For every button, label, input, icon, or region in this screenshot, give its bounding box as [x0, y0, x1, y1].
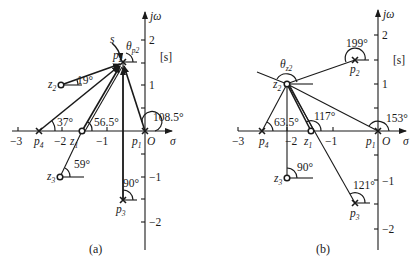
x-tick-neg3: −3 [10, 135, 22, 147]
sigma-axis-label: σ [170, 135, 177, 147]
x-tick-neg1: −1 [325, 135, 337, 147]
jw-axis-label: jω [148, 10, 161, 23]
angle-label-199: 199° [346, 37, 368, 49]
pole-label-p3: p3 [349, 207, 360, 222]
pole-label-p4: p4 [258, 135, 269, 150]
vector-p3-z2 [289, 86, 355, 203]
arrival-angle-label: θz2 [280, 58, 293, 73]
zero-label-z2: z2 [47, 78, 56, 93]
angle-label-56-5: 56.5° [94, 116, 119, 128]
y-tick-1: 1 [382, 78, 388, 90]
root-locus-figure: jω σ O [s] 2 1 −1 −2 −3 −2 −1 s [0, 0, 417, 270]
pole-label-p1: p1 [131, 135, 142, 150]
pole-label-p2: p2 [349, 63, 360, 78]
angle-label-59: 59° [74, 158, 91, 170]
vector-p2-z2 [289, 60, 355, 83]
y-tick-2: 2 [149, 34, 155, 46]
zero-z1 [79, 128, 85, 134]
x-tick-neg3: −3 [232, 135, 244, 147]
y-tick-2: 2 [382, 29, 388, 41]
test-point-s: s [110, 33, 115, 45]
zero-z3 [284, 175, 290, 181]
pole-label-p4: p4 [33, 135, 44, 150]
angle-label-90: 90° [123, 177, 140, 189]
angle-label-153: 153° [386, 112, 408, 124]
zero-label-z3: z3 [46, 170, 55, 185]
pole-label-p1: p1 [365, 135, 376, 150]
zero-label-z1: z1 [69, 135, 78, 150]
angle-arc-63-5 [267, 122, 273, 131]
angle-label-117: 117° [314, 110, 336, 122]
pole-label-p3: p3 [115, 203, 126, 218]
zero-z3 [57, 174, 63, 180]
departure-angle-label: θp2 [126, 40, 139, 55]
zero-label-z1: z1 [303, 135, 312, 150]
y-tick-neg2: −2 [382, 223, 394, 235]
angle-label-90: 90° [297, 161, 314, 173]
panel-a: jω σ O [s] 2 1 −1 −2 −3 −2 −1 s [10, 10, 184, 256]
zero-z1 [308, 128, 314, 134]
angle-label-19: 19° [77, 74, 94, 86]
angle-arc-59 [65, 168, 70, 177]
zero-label-z3: z3 [273, 172, 282, 187]
zero-z2 [58, 82, 64, 88]
x-tick-neg1: −1 [96, 135, 108, 147]
x-tick-neg2: −2 [54, 135, 66, 147]
caption-b: (b) [316, 242, 330, 256]
origin-label: O [147, 135, 156, 147]
y-tick-neg1: −1 [149, 171, 161, 183]
angle-label-63-5: 63.5° [274, 116, 299, 128]
zero-label-z2: z2 [272, 78, 281, 93]
panel-b: jω σ O [s] 2 1 −1 −2 −3 −2 −1 199° 63.5 [232, 8, 410, 256]
angle-label-108-5: 108.5° [153, 111, 184, 123]
angle-label-37: 37° [57, 116, 74, 128]
angle-arc-37 [52, 121, 55, 131]
jw-axis-label: jω [381, 8, 394, 21]
y-tick-neg1: −1 [382, 175, 394, 187]
zero-z2 [284, 81, 290, 87]
sigma-axis-label: σ [403, 135, 410, 147]
caption-a: (a) [89, 242, 102, 256]
pole-label-p2: p2 [112, 49, 123, 64]
y-tick-1: 1 [149, 79, 155, 91]
plane-label: [s] [393, 54, 405, 66]
origin-label: O [382, 135, 391, 147]
plane-label: [s] [160, 51, 172, 63]
angle-label-121: 121° [353, 179, 375, 191]
angle-arc-56-5 [88, 122, 92, 131]
y-tick-neg2: −2 [149, 216, 161, 228]
